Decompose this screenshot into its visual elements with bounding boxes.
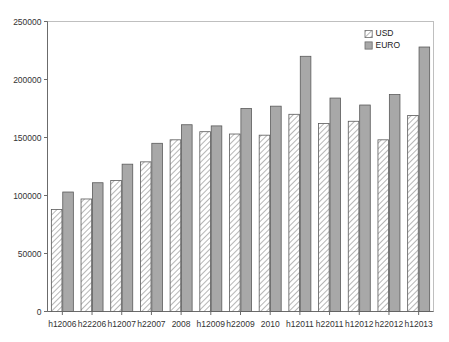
x-tick-label: h22012: [375, 319, 404, 329]
x-tick-label: h22206: [78, 319, 107, 329]
bar-usd-h12011: [289, 114, 300, 311]
bar-usd-h12007: [111, 180, 122, 311]
x-tick-label: h22007: [137, 319, 166, 329]
bar-usd-2008: [170, 140, 181, 312]
legend-swatch-euro: [365, 42, 372, 49]
bar-euro-h12009: [211, 126, 222, 312]
bar-usd-h12006: [51, 209, 62, 311]
bar-euro-h12007: [122, 164, 133, 311]
bar-usd-h12013: [408, 115, 419, 311]
bar-euro-h22009: [241, 109, 252, 312]
bar-euro-h12012: [360, 105, 371, 311]
x-tick-label: h12011: [286, 319, 314, 329]
legend-label-euro: EURO: [376, 40, 401, 50]
chart-canvas: 050000100000150000200000250000 h12006h22…: [0, 0, 449, 342]
bar-euro-h12011: [300, 56, 311, 311]
y-tick-label: 150000: [13, 133, 42, 143]
x-tick-label: h22009: [226, 319, 255, 329]
legend-swatch-usd: [365, 30, 372, 37]
bar-euro-h12013: [419, 47, 430, 311]
x-tick-label: h12012: [345, 319, 374, 329]
bar-usd-h22206: [81, 199, 92, 312]
x-tick-label: 2010: [261, 319, 280, 329]
bar-usd-h12009: [200, 132, 211, 312]
y-tick-label: 0: [37, 307, 42, 317]
bar-usd-h22012: [378, 140, 389, 312]
y-tick-label: 200000: [13, 75, 42, 85]
bar-euro-2010: [271, 106, 282, 311]
bar-euro-h22011: [330, 98, 341, 311]
legend-label-usd: USD: [376, 28, 394, 38]
x-tick-label: h12009: [197, 319, 226, 329]
x-tick-label: h12006: [48, 319, 77, 329]
x-tick-label: h12007: [108, 319, 137, 329]
y-tick-label: 100000: [13, 191, 42, 201]
bar-euro-h22206: [92, 183, 103, 312]
x-axis-ticks: h12006h22206h12007h220072008h12009h22009…: [48, 312, 433, 329]
bar-usd-h12012: [348, 121, 359, 311]
y-axis-ticks: 050000100000150000200000250000: [13, 17, 47, 317]
bar-usd-h22011: [319, 124, 330, 312]
bar-euro-h22007: [152, 143, 163, 311]
x-tick-label: h22011: [316, 319, 344, 329]
x-tick-label: h12013: [404, 319, 433, 329]
bar-usd-h22009: [230, 134, 241, 311]
bar-usd-2010: [259, 135, 270, 311]
bar-euro-h12006: [63, 192, 74, 311]
bar-chart: 050000100000150000200000250000 h12006h22…: [0, 0, 449, 342]
x-tick-label: 2008: [172, 319, 191, 329]
bars-layer: [51, 47, 429, 311]
y-tick-label: 250000: [13, 17, 42, 27]
bar-usd-h22007: [140, 162, 151, 312]
y-tick-label: 50000: [18, 249, 42, 259]
chart-legend: USDEURO: [365, 28, 400, 50]
bar-euro-h22012: [389, 95, 400, 312]
bar-euro-2008: [182, 125, 193, 312]
